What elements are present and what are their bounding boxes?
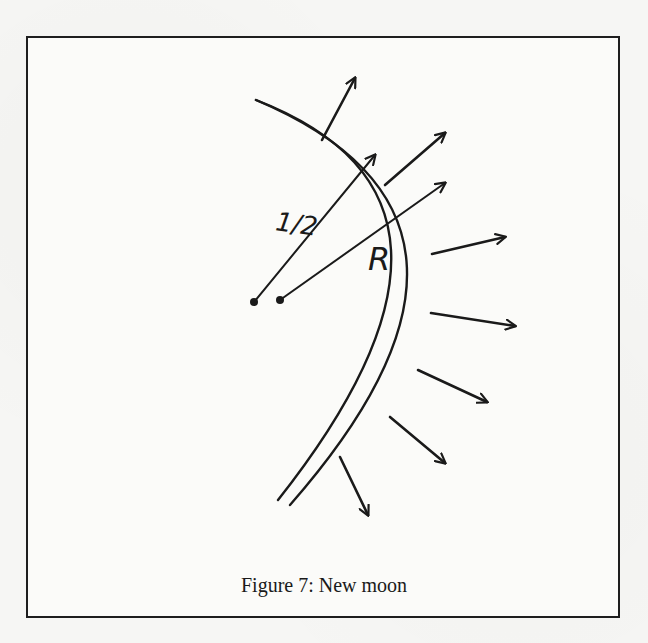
half-radius-label: 1/2 xyxy=(274,206,320,242)
normal-arrow-icon xyxy=(390,417,445,463)
normal-arrow-icon xyxy=(432,237,505,254)
normal-arrow-icon xyxy=(385,133,445,185)
normal-arrow-icon xyxy=(431,313,515,326)
radius-label: R xyxy=(368,240,390,278)
normal-arrows xyxy=(322,78,515,515)
radius-center-dot xyxy=(276,296,284,304)
normal-arrow-icon xyxy=(418,370,487,402)
half-radius-center-dot xyxy=(250,298,258,306)
new-moon-diagram: 1/2 R xyxy=(0,0,648,643)
figure-caption: Figure 7: New moon xyxy=(0,574,648,597)
normal-arrow-icon xyxy=(322,78,355,140)
normal-arrow-icon xyxy=(340,457,368,515)
